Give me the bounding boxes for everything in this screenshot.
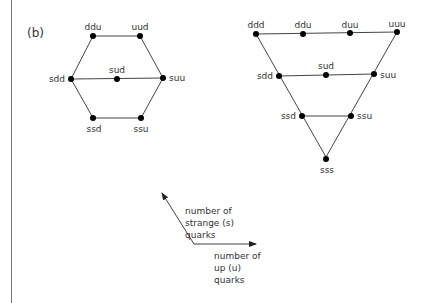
label-ssd: ssd <box>86 124 101 134</box>
strange-axis-label-line1: number of <box>185 206 232 216</box>
quark-diagram: ddu uud sdd sud suu ssd ssu ddd ddu duu … <box>0 0 429 303</box>
label-sud: sud <box>109 65 125 75</box>
edge <box>141 78 163 118</box>
node-sud <box>114 76 120 82</box>
node-ddu <box>300 31 306 37</box>
label-ddu: ddu <box>294 20 311 30</box>
node-ssd <box>299 113 305 119</box>
node-ssu <box>348 113 354 119</box>
label-sss: sss <box>320 165 334 175</box>
edge <box>71 79 93 118</box>
up-axis-label-line2: up (u) <box>214 263 241 273</box>
node-ddu <box>90 33 96 39</box>
label-uuu: uuu <box>388 19 405 29</box>
label-sud: sud <box>318 61 334 71</box>
node-ssu <box>138 115 144 121</box>
up-axis-label-line1: number of <box>214 251 261 261</box>
label-uud: uud <box>131 22 148 32</box>
label-duu: duu <box>341 20 358 30</box>
label-suu: suu <box>380 70 396 80</box>
strange-axis-label-line2: strange (s) <box>185 218 234 228</box>
node-sss <box>323 156 329 162</box>
label-ddd: ddd <box>247 20 264 30</box>
axes-legend: number of strange (s) quarks number of u… <box>162 193 261 285</box>
node-suu <box>160 75 166 81</box>
label-suu: suu <box>169 73 185 83</box>
node-sdd <box>276 73 282 79</box>
up-axis-label-line3: quarks <box>214 275 245 285</box>
label-sdd: sdd <box>257 71 273 81</box>
label-ddu: ddu <box>84 22 101 32</box>
strange-axis-label-line3: quarks <box>185 230 216 240</box>
label-ssd: ssd <box>281 111 296 121</box>
edge <box>140 36 163 78</box>
label-ssu: ssu <box>357 111 372 121</box>
edge <box>256 32 397 34</box>
node-ssd <box>90 115 96 121</box>
node-suu <box>371 71 377 77</box>
node-uuu <box>394 29 400 35</box>
triangle-diagram: ddd ddu duu uuu sdd sud suu ssd ssu sss <box>247 19 405 175</box>
hexagon-diagram: ddu uud sdd sud suu ssd ssu <box>49 22 185 134</box>
node-ddd <box>253 31 259 37</box>
edge <box>256 34 326 157</box>
node-sud <box>323 72 329 78</box>
node-duu <box>347 30 353 36</box>
label-sdd: sdd <box>49 74 65 84</box>
label-ssu: ssu <box>133 124 148 134</box>
node-uud <box>137 33 143 39</box>
edge <box>326 32 397 157</box>
edge <box>71 36 93 79</box>
node-sdd <box>68 76 74 82</box>
